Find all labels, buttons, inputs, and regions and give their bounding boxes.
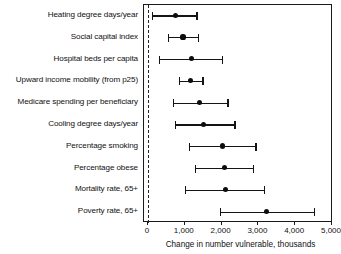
- point-estimate-marker: [201, 122, 206, 127]
- category-label: Percentage smoking: [0, 141, 138, 150]
- category-label: Heating degree days/year: [0, 10, 138, 19]
- category-label: Social capital index: [0, 32, 138, 41]
- interval-row: [144, 32, 331, 43]
- forest-plot-figure: Heating degree days/yearSocial capital i…: [0, 0, 341, 254]
- interval-lower-cap: [185, 186, 186, 194]
- x-axis-tick: [257, 222, 258, 225]
- x-axis-tick-label: 2,000: [211, 226, 231, 235]
- interval-lower-cap: [159, 56, 160, 64]
- x-axis-tick: [184, 222, 185, 225]
- interval-upper-cap: [253, 165, 254, 173]
- category-label: Poverty rate, 65+: [0, 206, 138, 215]
- interval-upper-cap: [222, 56, 223, 64]
- point-estimate-marker: [222, 165, 227, 170]
- point-estimate-marker: [188, 78, 193, 83]
- plot-area: [143, 4, 332, 222]
- interval-upper-cap: [198, 34, 199, 42]
- point-estimate-marker: [264, 209, 269, 214]
- interval-row: [144, 76, 331, 87]
- category-label: Medicare spending per beneficiary: [0, 97, 138, 106]
- interval-row: [144, 119, 331, 130]
- interval-lower-cap: [173, 99, 174, 107]
- point-estimate-marker: [197, 100, 202, 105]
- category-label: Cooling degree days/year: [0, 119, 138, 128]
- interval-lower-cap: [220, 208, 221, 216]
- interval-lower-cap: [179, 77, 180, 85]
- interval-upper-cap: [234, 121, 235, 129]
- interval-upper-cap: [314, 208, 315, 216]
- category-label-column: Heating degree days/yearSocial capital i…: [0, 0, 141, 222]
- point-estimate-marker: [189, 56, 194, 61]
- interval-upper-cap: [227, 99, 228, 107]
- category-label: Upward income mobility (from p25): [0, 75, 138, 84]
- interval-row: [144, 141, 331, 152]
- x-axis-tick-label: 4,000: [284, 226, 304, 235]
- x-axis-title: Change in number vulnerable, thousands: [143, 240, 338, 249]
- interval-row: [144, 10, 331, 21]
- x-axis-tick: [221, 222, 222, 225]
- interval-row: [144, 185, 331, 196]
- interval-lower-cap: [189, 143, 190, 151]
- point-estimate-marker: [220, 143, 225, 148]
- interval-upper-cap: [255, 143, 256, 151]
- x-axis-tick-label: 1,000: [174, 226, 194, 235]
- interval-row: [144, 207, 331, 218]
- x-axis-tick-label: 0: [145, 226, 149, 235]
- point-estimate-marker: [173, 13, 178, 18]
- interval-row: [144, 163, 331, 174]
- interval-row: [144, 54, 331, 65]
- interval-row: [144, 98, 331, 109]
- interval-lower-cap: [152, 12, 153, 20]
- interval-lower-cap: [168, 34, 169, 42]
- interval-lower-cap: [175, 121, 176, 129]
- x-axis-tick: [294, 222, 295, 225]
- point-estimate-marker: [180, 34, 185, 39]
- x-axis: 01,0002,0003,0004,0005,000: [143, 222, 332, 254]
- category-label: Percentage obese: [0, 163, 138, 172]
- x-axis-tick-label: 3,000: [247, 226, 267, 235]
- interval-upper-cap: [264, 186, 265, 194]
- category-label: Mortality rate, 65+: [0, 184, 138, 193]
- x-axis-tick-label: 5,000: [321, 226, 341, 235]
- interval-upper-cap: [196, 12, 197, 20]
- x-axis-tick: [331, 222, 332, 225]
- point-estimate-marker: [223, 187, 228, 192]
- x-axis-tick: [147, 222, 148, 225]
- category-label: Hospital beds per capita: [0, 54, 138, 63]
- interval-lower-cap: [195, 165, 196, 173]
- interval-upper-cap: [202, 77, 203, 85]
